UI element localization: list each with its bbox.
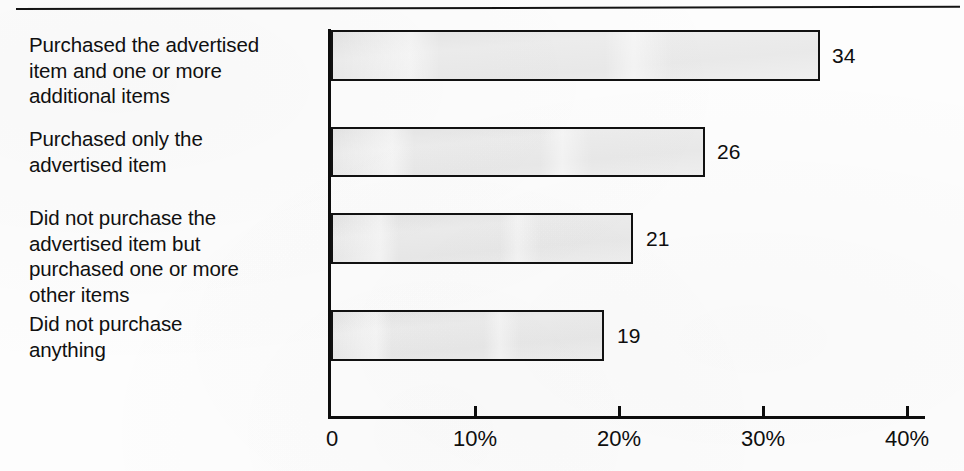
bar-value-1: 26 — [717, 141, 740, 162]
bar-3[interactable] — [331, 310, 604, 361]
x-tick-10 — [474, 406, 477, 417]
x-tick-label-40: 40% — [885, 426, 929, 452]
bar-value-2: 21 — [646, 228, 669, 249]
x-tick-30 — [762, 406, 765, 417]
x-tick-label-10: 10% — [453, 426, 497, 452]
x-axis-line — [328, 416, 925, 419]
chart-page: Purchased the advertised item and one or… — [0, 0, 964, 471]
x-tick-label-30: 30% — [741, 426, 785, 452]
bar-value-0: 34 — [832, 45, 855, 66]
x-tick-label-20: 20% — [597, 426, 641, 452]
x-tick-20 — [618, 406, 621, 417]
x-tick-40 — [906, 406, 909, 417]
bar-value-3: 19 — [617, 325, 640, 346]
plot-area: 34 26 21 19 0 10% 20% 30% 40% — [0, 0, 964, 471]
bar-1[interactable] — [331, 127, 705, 177]
bar-0[interactable] — [331, 30, 820, 81]
bar-2[interactable] — [331, 213, 633, 264]
x-tick-label-0: 0 — [326, 426, 338, 452]
